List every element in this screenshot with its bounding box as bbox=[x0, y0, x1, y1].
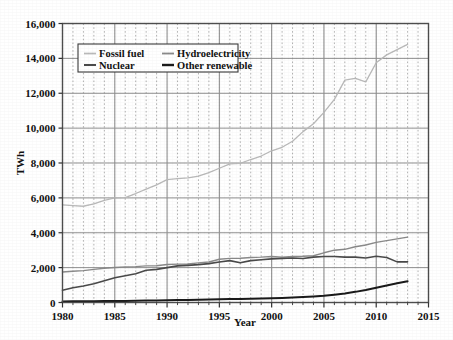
x-tick-label: 1995 bbox=[208, 310, 231, 322]
x-tick-label: 2005 bbox=[313, 310, 336, 322]
legend-label-nuclear: Nuclear bbox=[99, 60, 135, 71]
x-tick-label: 2010 bbox=[365, 310, 388, 322]
y-tick-label: 2,000 bbox=[31, 262, 56, 274]
y-tick-label: 4,000 bbox=[31, 227, 56, 239]
y-tick-label: 14,000 bbox=[25, 52, 56, 64]
y-tick-label: 10,000 bbox=[25, 122, 56, 134]
legend-label-other-renewable: Other renewable bbox=[177, 60, 252, 71]
x-tick-label: 2000 bbox=[261, 310, 284, 322]
y-tick-label: 16,000 bbox=[25, 18, 56, 30]
y-tick-label: 8,000 bbox=[31, 157, 56, 169]
x-tick-label: 1985 bbox=[104, 310, 127, 322]
legend-label-hydroelectricity: Hydroelectricity bbox=[177, 48, 251, 59]
legend-label-fossil-fuel: Fossil fuel bbox=[99, 48, 144, 59]
y-tick-label: 6,000 bbox=[31, 192, 56, 204]
y-tick-label: 12,000 bbox=[25, 87, 56, 99]
chart-legend: Fossil fuelHydroelectricityNuclearOther … bbox=[78, 44, 252, 72]
chart-container: 02,0004,0006,0008,00010,00012,00014,0001… bbox=[0, 0, 453, 340]
energy-generation-line-chart: 02,0004,0006,0008,00010,00012,00014,0001… bbox=[0, 0, 453, 340]
y-axis-title: TWh bbox=[14, 151, 26, 175]
x-tick-label: 1980 bbox=[52, 310, 75, 322]
x-tick-label: 2015 bbox=[418, 310, 441, 322]
y-tick-label: 0 bbox=[50, 297, 56, 309]
x-tick-label: 1990 bbox=[156, 310, 179, 322]
x-axis-title: Year bbox=[234, 316, 256, 328]
